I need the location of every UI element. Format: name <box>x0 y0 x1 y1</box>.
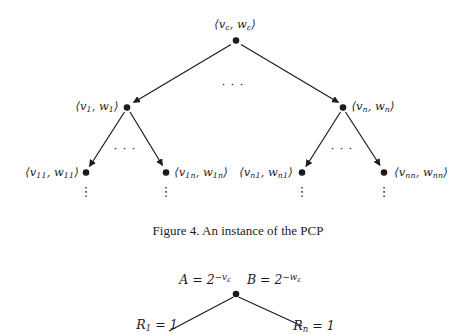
math-sub: nn <box>433 171 443 180</box>
math-run: ⟩ <box>223 165 228 179</box>
node-label-childn: ⟨vn, wn⟩ <box>351 101 394 114</box>
math-sub: 11 <box>36 171 46 180</box>
math-run: ⟨v <box>174 165 185 179</box>
node-label-child1: ⟨v1, w1⟩ <box>76 101 119 114</box>
math-run: = 1 <box>151 317 177 332</box>
math-run: , w <box>92 99 109 113</box>
paper-figure-page: ⟨vε, wε⟩ ⟨v1, w1⟩ ⟨vn, wn⟩ ⟨v11, w11⟩ ⟨v… <box>0 0 475 335</box>
math-run: , w <box>230 17 247 31</box>
ellipsis-left-subtree: · · · <box>114 144 136 155</box>
math-sub: n1 <box>250 171 260 180</box>
math-run: , w <box>261 165 278 179</box>
math-run: ⟨v <box>394 165 405 179</box>
math-run: B = 2 <box>247 272 283 287</box>
vdots-leafn1: ⋮ <box>296 185 309 198</box>
math-sub: ε <box>297 276 301 284</box>
node-dot-leaf1n <box>163 170 168 175</box>
label-r1-equation: R1 = 1 <box>136 319 177 333</box>
math-run: R <box>136 317 145 332</box>
math-run: ⟨v <box>214 17 225 31</box>
math-run: ⟩ <box>443 165 448 179</box>
node-label-leaf11: ⟨v11, w11⟩ <box>25 167 78 180</box>
edge-bottom-left <box>169 297 234 331</box>
node-dot-leafn1 <box>299 170 304 175</box>
edge-root-to-child1 <box>134 45 232 103</box>
node-label-leafn1: ⟨vn1, wn1⟩ <box>239 167 292 180</box>
math-run: ⟨v <box>25 165 36 179</box>
edge-child1-to-leaf1n <box>130 112 163 166</box>
math-run: ⟩ <box>288 165 293 179</box>
math-sub: n1 <box>278 171 288 180</box>
math-run: ⟩ <box>74 165 79 179</box>
edge-childn-to-leafnn <box>346 112 381 166</box>
edge-childn-to-leafn1 <box>306 112 341 167</box>
math-sub: 1n <box>185 171 195 180</box>
math-sup: −wε <box>282 272 301 282</box>
vdots-leaf1n: ⋮ <box>160 185 173 198</box>
node-label-root: ⟨vε, wε⟩ <box>214 19 255 32</box>
math-run: , w <box>416 165 433 179</box>
label-a-equation: A = 2−vε <box>179 273 230 287</box>
node-label-leafnn: ⟨vnn, wnn⟩ <box>394 167 448 180</box>
edge-child1-to-leaf11 <box>90 112 125 167</box>
math-sup: −vε <box>215 272 231 282</box>
math-run: , w <box>196 165 213 179</box>
node-label-leaf1n: ⟨v1n, w1n⟩ <box>174 167 227 180</box>
vdots-leaf11: ⋮ <box>80 185 93 198</box>
math-run: ⟨v <box>351 99 362 113</box>
math-run: ⟩ <box>114 99 119 113</box>
ellipsis-right-subtree: · · · <box>331 144 353 155</box>
math-run: , w <box>368 99 385 113</box>
figure-caption: Figure 4. An instance of the PCP <box>153 223 324 239</box>
node-dot-root <box>233 38 238 43</box>
math-run: = 1 <box>308 318 334 333</box>
math-run: ⟨v <box>239 165 250 179</box>
node-dot-childn <box>340 105 345 110</box>
math-run: ⟨v <box>76 99 87 113</box>
math-run: ⟩ <box>390 99 395 113</box>
label-b-equation: B = 2−wε <box>247 273 301 287</box>
vdots-leafnn: ⋮ <box>378 185 391 198</box>
math-run: A = 2 <box>179 272 214 287</box>
node-dot-child1 <box>124 105 129 110</box>
math-run: , w <box>47 165 64 179</box>
ellipsis-top: · · · <box>222 80 244 91</box>
math-sub: 1n <box>213 171 223 180</box>
node-dot-bottom <box>233 291 238 296</box>
node-dot-leaf11 <box>83 170 88 175</box>
math-run: −w <box>282 272 297 282</box>
math-sub: ε <box>227 276 231 284</box>
math-run: −v <box>215 272 227 282</box>
math-sub: nn <box>405 171 415 180</box>
node-dot-leafnn <box>381 170 386 175</box>
label-rn-equation: Rn = 1 <box>293 320 334 334</box>
math-run: ⟩ <box>251 17 256 31</box>
edge-root-to-childn <box>241 45 339 103</box>
math-sub: 11 <box>64 171 74 180</box>
